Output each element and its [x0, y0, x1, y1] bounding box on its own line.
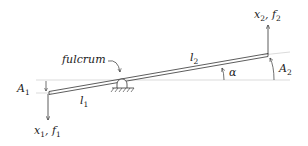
a2-arc-arrow — [270, 58, 274, 80]
a2-label: A2 — [279, 63, 292, 77]
l2-label: l2 — [190, 52, 198, 66]
fulcrum-support — [111, 79, 134, 92]
alpha-label: α — [229, 67, 236, 78]
fulcrum-label: fulcrum — [62, 54, 106, 65]
x1-f1-label: x1, f1 — [34, 125, 61, 139]
lever-diagram: fulcrum l1 l2 α A1 A2 x1, f1 x2, f2 — [0, 0, 308, 146]
fulcrum-pointer-arrow — [108, 61, 120, 72]
l1-label: l1 — [80, 95, 88, 109]
a1-label: A1 — [17, 83, 30, 97]
alpha-arc-arrow — [222, 68, 224, 80]
x2-f2-label: x2, f2 — [254, 9, 281, 23]
